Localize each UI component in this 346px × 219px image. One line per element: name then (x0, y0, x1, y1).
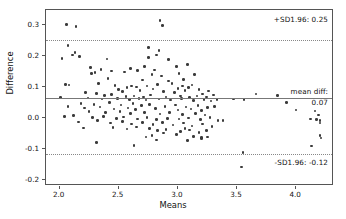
scatter-point (104, 111, 107, 114)
scatter-point (112, 126, 115, 129)
scatter-point (207, 90, 210, 93)
scatter-point (109, 122, 112, 125)
lower-limit-annotation: -SD1.96: -0.12 (275, 158, 328, 167)
scatter-point (75, 25, 78, 28)
x-axis-tick (177, 186, 178, 189)
scatter-point (217, 119, 220, 122)
scatter-point (146, 85, 149, 88)
scatter-point (134, 108, 137, 111)
scatter-point (193, 73, 196, 76)
y-axis-tick (42, 55, 45, 56)
scatter-point (175, 133, 178, 136)
scatter-point (161, 24, 164, 27)
scatter-point (211, 125, 214, 128)
y-axis-tick-label: 0.0 (28, 113, 39, 122)
scatter-point (129, 112, 132, 115)
scatter-point (110, 70, 113, 73)
scatter-point (190, 108, 193, 111)
y-axis-tick (42, 117, 45, 118)
scatter-point (121, 90, 124, 93)
scatter-point (143, 65, 146, 68)
scatter-point (177, 109, 180, 112)
scatter-point (181, 113, 184, 116)
scatter-point (113, 108, 116, 111)
scatter-point (187, 86, 190, 89)
scatter-point (77, 121, 80, 124)
y-axis-tick (42, 24, 45, 25)
scatter-point (205, 129, 208, 132)
y-axis-tick-label: -0.1 (25, 144, 39, 153)
scatter-point (99, 106, 102, 109)
scatter-point (210, 100, 213, 103)
scatter-point (173, 91, 176, 94)
scatter-point (166, 117, 169, 120)
scatter-point (122, 116, 125, 119)
scatter-point (106, 58, 109, 61)
scatter-point (156, 129, 159, 132)
scatter-point (152, 88, 155, 91)
scatter-point (162, 132, 165, 135)
scatter-point (167, 80, 170, 83)
y-axis-label: Difference (5, 33, 15, 113)
scatter-point (185, 106, 188, 109)
scatter-point (135, 126, 138, 129)
scatter-point (155, 118, 158, 121)
scatter-point (145, 99, 148, 102)
y-axis-tick-label: 0.2 (28, 51, 39, 60)
upper-limit-annotation: +SD1.96: 0.25 (274, 15, 328, 24)
scatter-point (194, 112, 197, 115)
scatter-point (119, 110, 122, 113)
scatter-point (200, 109, 203, 112)
scatter-point (152, 123, 155, 126)
scatter-point (156, 83, 159, 86)
scatter-point (84, 91, 87, 94)
scatter-point (177, 87, 180, 90)
scatter-point (172, 124, 175, 127)
scatter-point (158, 49, 161, 52)
scatter-point (199, 118, 202, 121)
scatter-point (126, 128, 129, 131)
scatter-point (149, 94, 152, 97)
scatter-point (136, 118, 139, 121)
scatter-point (310, 145, 313, 148)
scatter-point (108, 101, 111, 104)
scatter-point (155, 54, 158, 57)
scatter-point (198, 131, 201, 134)
scatter-point (93, 103, 96, 106)
scatter-point (120, 104, 123, 107)
scatter-point (285, 101, 288, 104)
scatter-point (130, 85, 133, 88)
scatter-point (83, 107, 86, 110)
scatter-point (161, 121, 164, 124)
lower-limit-of-agreement-line (46, 154, 332, 155)
upper-limit-of-agreement-line (46, 40, 332, 41)
scatter-point (147, 46, 150, 49)
scatter-point (127, 107, 130, 110)
x-axis-tick-label: 3.0 (171, 190, 182, 199)
scatter-point (186, 63, 189, 66)
scatter-point (314, 110, 317, 113)
scatter-point (96, 119, 99, 122)
scatter-point (123, 71, 126, 74)
mean-diff-label: mean diff: (291, 86, 328, 97)
scatter-point (160, 75, 163, 78)
scatter-point (178, 118, 181, 121)
scatter-point (103, 94, 106, 97)
scatter-point (94, 71, 97, 74)
scatter-point (206, 136, 209, 139)
scatter-point (107, 77, 110, 80)
scatter-point (89, 66, 92, 69)
scatter-point (133, 144, 136, 147)
scatter-point (121, 120, 124, 123)
scatter-point (164, 105, 167, 108)
scatter-point (91, 116, 94, 119)
scatter-point (179, 130, 182, 133)
scatter-point (171, 82, 174, 85)
scatter-point (182, 122, 185, 125)
y-axis-tick (42, 86, 45, 87)
scatter-point (182, 78, 185, 81)
scatter-point (309, 118, 312, 121)
scatter-point (63, 115, 66, 118)
scatter-point (114, 84, 117, 87)
scatter-point (159, 19, 162, 22)
